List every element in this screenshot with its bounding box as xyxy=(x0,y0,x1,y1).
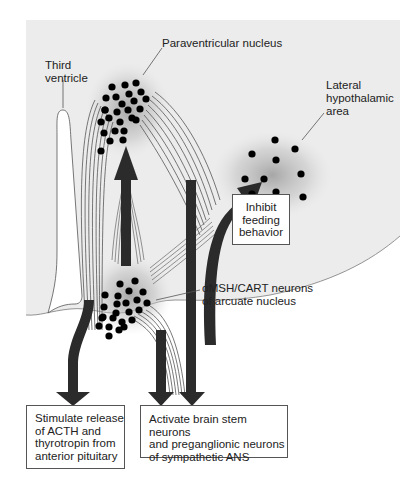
inhibit-feeding-box: Inhibit feeding behavior xyxy=(232,194,290,245)
paraventricular-label: Paraventricular nucleus xyxy=(162,37,282,50)
lateral-hypothalamic-label: Lateral hypothalamic area xyxy=(326,79,394,118)
stimulate-release-box: Stimulate release of ACTH and thyrotropi… xyxy=(26,405,125,469)
diagram: Paraventricular nucleus Third ventricle … xyxy=(0,0,412,483)
arcuate-label: αMSH/CART neurons of arcuate nucleus xyxy=(202,282,313,308)
third-ventricle-label: Third ventricle xyxy=(45,59,88,85)
activate-brainstem-box: Activate brain stem neurons and pregangl… xyxy=(140,405,288,458)
